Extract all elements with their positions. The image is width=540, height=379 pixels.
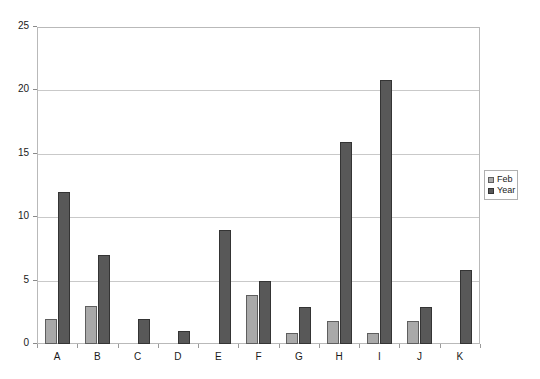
legend-swatch-icon	[488, 188, 494, 194]
bar-I-feb	[367, 333, 379, 344]
x-axis-tick-label: K	[440, 351, 480, 362]
y-axis-tick-label: 15	[0, 147, 29, 158]
y-axis-tick-label: 5	[0, 274, 29, 285]
y-axis-tick-mark	[33, 280, 37, 281]
x-axis-tick-label: J	[400, 351, 440, 362]
x-axis-tick-mark	[77, 344, 78, 348]
x-axis-tick-label: A	[37, 351, 77, 362]
x-axis-tick-label: B	[77, 351, 117, 362]
legend-label: Feb	[497, 174, 513, 185]
y-axis-tick-label: 10	[0, 210, 29, 221]
x-axis-tick-label: D	[158, 351, 198, 362]
bar-F-year	[259, 281, 271, 344]
x-axis-tick-mark	[238, 344, 239, 348]
x-axis-tick-mark	[198, 344, 199, 348]
legend-item-feb: Feb	[488, 174, 514, 185]
bar-E-year	[219, 230, 231, 344]
legend-swatch-icon	[488, 177, 494, 183]
bar-H-year	[340, 142, 352, 344]
bar-K-year	[460, 270, 472, 344]
y-axis-tick-mark	[33, 26, 37, 27]
x-axis-tick-label: E	[198, 351, 238, 362]
bar-G-year	[299, 307, 311, 344]
bar-H-feb	[327, 321, 339, 344]
bar-B-feb	[85, 306, 97, 344]
x-axis-tick-label: G	[279, 351, 319, 362]
gridline	[38, 154, 479, 155]
bar-F-feb	[246, 295, 258, 344]
x-axis-tick-mark	[37, 344, 38, 348]
gridline	[38, 217, 479, 218]
bar-G-feb	[286, 333, 298, 344]
x-axis-tick-label: C	[118, 351, 158, 362]
bar-B-year	[98, 255, 110, 344]
x-axis-tick-label: H	[319, 351, 359, 362]
chart-legend: FebYear	[484, 170, 518, 200]
y-axis-tick-label: 0	[0, 337, 29, 348]
legend-item-year: Year	[488, 185, 514, 196]
x-axis-tick-label: I	[359, 351, 399, 362]
y-axis-tick-label: 25	[0, 20, 29, 31]
x-axis-tick-mark	[480, 344, 481, 348]
bar-chart: 0510152025 ABCDEFGHIJK FebYear	[0, 0, 540, 379]
x-axis-tick-mark	[399, 344, 400, 348]
bar-J-feb	[407, 321, 419, 344]
bar-J-year	[420, 307, 432, 344]
bar-D-year	[178, 331, 190, 344]
x-axis-tick-mark	[359, 344, 360, 348]
y-axis-tick-mark	[33, 153, 37, 154]
legend-label: Year	[497, 185, 515, 196]
y-axis-tick-mark	[33, 216, 37, 217]
gridline	[38, 90, 479, 91]
y-axis-tick-mark	[33, 89, 37, 90]
x-axis-tick-mark	[279, 344, 280, 348]
bar-A-feb	[45, 319, 57, 344]
bar-C-year	[138, 319, 150, 344]
bar-A-year	[58, 192, 70, 344]
y-axis-tick-label: 20	[0, 83, 29, 94]
x-axis-tick-label: F	[239, 351, 279, 362]
bar-I-year	[380, 80, 392, 344]
x-axis-tick-mark	[158, 344, 159, 348]
x-axis-tick-mark	[118, 344, 119, 348]
x-axis-tick-mark	[440, 344, 441, 348]
x-axis-tick-mark	[319, 344, 320, 348]
